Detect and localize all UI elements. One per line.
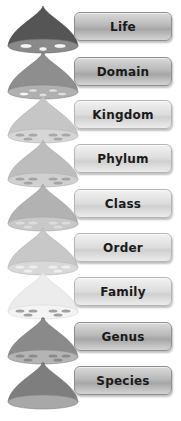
level-class: Class <box>74 189 172 218</box>
level-life: Life <box>74 12 172 41</box>
level-family: Family <box>74 277 172 306</box>
drop-life <box>6 6 80 58</box>
level-species: Species <box>74 366 172 395</box>
level-genus: Genus <box>74 322 172 351</box>
level-label: Order <box>103 241 143 255</box>
level-label: Class <box>105 197 141 211</box>
level-label: Domain <box>97 65 150 79</box>
level-label: Kingdom <box>92 108 153 122</box>
level-label: Species <box>96 374 149 388</box>
level-domain: Domain <box>74 57 172 86</box>
level-phylum: Phylum <box>74 144 172 173</box>
level-label: Phylum <box>97 152 149 166</box>
drop-shape-icon <box>6 6 80 58</box>
taxonomy-diagram: Life Domain Kingdom Phylum Class Order F… <box>0 0 181 421</box>
level-kingdom: Kingdom <box>74 100 172 129</box>
drop-shape-icon <box>6 362 80 414</box>
drop-species <box>6 362 80 414</box>
level-label: Life <box>110 20 136 34</box>
level-label: Genus <box>101 330 144 344</box>
level-label: Family <box>100 285 145 299</box>
level-order: Order <box>74 233 172 262</box>
